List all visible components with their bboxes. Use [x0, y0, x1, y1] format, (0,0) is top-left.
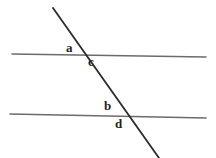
geometry-diagram-canvas [0, 0, 216, 158]
angle-label-a: a [66, 41, 73, 54]
geometry-figure: a c b d [0, 0, 216, 158]
angle-label-b: b [104, 99, 111, 112]
diagram-background [0, 0, 216, 158]
angle-label-c: c [88, 55, 94, 68]
angle-label-d: d [115, 117, 122, 130]
